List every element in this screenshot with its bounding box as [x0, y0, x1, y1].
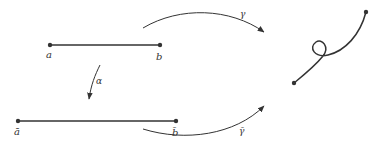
label-b-bar: b̄ — [172, 127, 178, 138]
point-a-bar — [16, 119, 20, 123]
point-b-bar — [174, 119, 178, 123]
gamma-arrow — [143, 13, 264, 32]
segment-ab — [48, 43, 162, 47]
label-a-bar: ā — [14, 126, 20, 137]
diagram-canvas: a b α ā b̄ γ γ̄ — [0, 0, 389, 145]
curve-end-point — [364, 10, 368, 14]
label-a: a — [46, 49, 52, 60]
curve-start-point — [292, 81, 296, 85]
label-gamma-bar: γ̄ — [239, 126, 245, 136]
label-b: b — [156, 51, 162, 62]
label-alpha: α — [96, 76, 102, 86]
point-b — [158, 43, 162, 47]
segment-ab-bar — [16, 119, 178, 123]
diagram-svg: a b α ā b̄ γ γ̄ — [0, 0, 389, 145]
curve-image — [292, 10, 368, 85]
point-a — [48, 43, 52, 47]
label-gamma: γ — [240, 9, 246, 19]
